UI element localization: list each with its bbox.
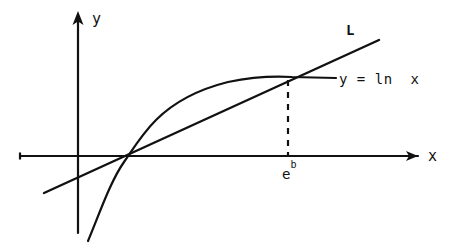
y-axis [73, 11, 84, 233]
plot-canvas [0, 0, 450, 252]
ln-curve [88, 77, 336, 241]
x-axis-label: x [428, 149, 437, 164]
ln-curve-figure: y x L y = ln x eb [0, 0, 450, 252]
line-L-label: L [346, 23, 354, 37]
curve-equation-label: y = ln x [339, 72, 419, 86]
x-tick-label-e-b: eb [282, 165, 296, 181]
x-tick-label-exponent: b [290, 159, 296, 170]
y-axis-label: y [92, 12, 101, 27]
x-axis [20, 151, 418, 161]
tangent-line-L [44, 40, 379, 193]
